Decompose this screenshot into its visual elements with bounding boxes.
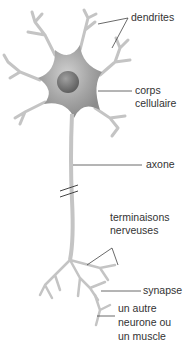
- label-term-2: nerveuses: [110, 224, 158, 237]
- label-synapse: synapse: [143, 284, 182, 297]
- label-autre-1: un autre: [118, 302, 157, 315]
- label-autre-3: un muscle: [118, 330, 166, 343]
- label-dendrites: dendrites: [131, 11, 174, 24]
- nerve-terminals: [40, 260, 115, 325]
- label-axone: axone: [146, 158, 175, 171]
- label-autre-2: neurone ou: [118, 316, 171, 329]
- neuron-diagram: [0, 0, 191, 353]
- label-corps-2: cellulaire: [135, 97, 176, 110]
- nucleus: [57, 71, 79, 93]
- label-term-1: terminaisons: [110, 211, 170, 224]
- label-corps-1: corps: [135, 84, 161, 97]
